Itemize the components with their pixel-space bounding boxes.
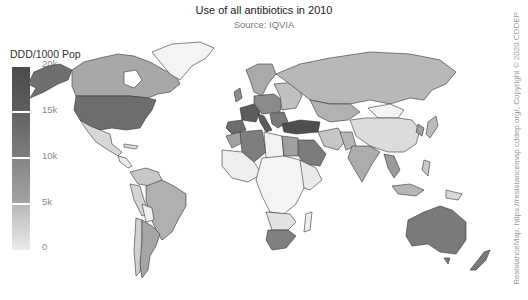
region-australia[interactable] (406, 206, 466, 254)
region-mongolia[interactable] (368, 104, 404, 118)
world-map[interactable] (0, 0, 528, 300)
region-cuba[interactable] (124, 144, 138, 149)
region-egypt[interactable] (282, 136, 298, 156)
region-libya[interactable] (264, 132, 284, 160)
region-italy[interactable] (258, 114, 272, 132)
copyright-credit: ResistanceMap, https://resistancemap.cdd… (512, 9, 521, 289)
region-uk[interactable] (234, 88, 242, 102)
region-central-america[interactable] (118, 156, 132, 168)
region-philippines[interactable] (422, 160, 430, 176)
region-alaska[interactable] (28, 64, 72, 98)
region-southeast-asia[interactable] (384, 154, 400, 178)
region-iran[interactable] (318, 128, 346, 150)
region-south-africa[interactable] (266, 230, 296, 250)
region-new-zealand[interactable] (470, 250, 490, 270)
region-scandinavia[interactable] (246, 64, 276, 96)
region-papua-new-guinea[interactable] (446, 190, 462, 200)
region-tasmania[interactable] (444, 258, 450, 264)
region-madagascar[interactable] (304, 212, 312, 232)
region-india[interactable] (348, 146, 380, 182)
region-southern-africa[interactable] (266, 212, 296, 230)
region-russia[interactable] (276, 52, 456, 104)
region-japan[interactable] (426, 116, 438, 138)
region-indonesia[interactable] (392, 184, 424, 196)
